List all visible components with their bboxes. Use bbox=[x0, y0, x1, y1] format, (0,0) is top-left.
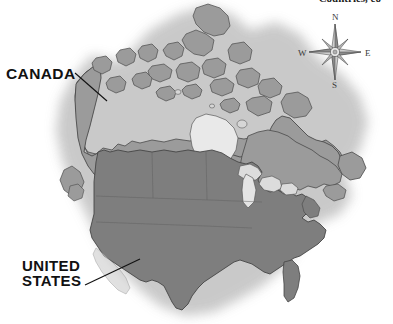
compass-north-label: N bbox=[332, 12, 339, 22]
compass-rose: N E S W bbox=[296, 12, 374, 92]
compass-west-label: W bbox=[298, 48, 307, 58]
map-label-canada: CANADA bbox=[6, 66, 76, 82]
map-label-united-states: UNITED STATES bbox=[22, 258, 81, 289]
header-partial-text: Countries, co bbox=[319, 0, 381, 4]
header-clip: Countries, co bbox=[0, 0, 393, 5]
map-figure: Countries, co CANADA UNITED STATES bbox=[0, 0, 393, 324]
florida bbox=[283, 260, 300, 302]
compass-east-label: E bbox=[365, 48, 371, 58]
compass-south-label: S bbox=[332, 80, 337, 90]
